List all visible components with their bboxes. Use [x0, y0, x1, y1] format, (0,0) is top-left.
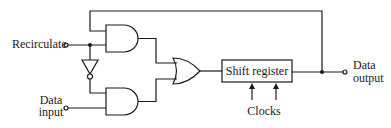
data-output-terminal: [343, 70, 347, 74]
and-upper-to-or-wire: [138, 39, 177, 64]
shift-register-label: Shift register: [222, 65, 292, 78]
recirculate-label: Recirculate: [12, 38, 67, 51]
junction-dot-output: [320, 70, 324, 74]
clock-arrowhead-1: [249, 83, 255, 89]
inverter-output-wire: [90, 79, 106, 93]
clock-arrowhead-2: [273, 83, 279, 89]
junction-dot-recirculate: [88, 43, 92, 47]
and-lower-to-or-wire: [138, 79, 177, 102]
and-gate-lower: [106, 88, 138, 115]
or-gate: [173, 58, 200, 84]
data-input-label-line2: input: [36, 106, 66, 119]
clocks-label: Clocks: [238, 105, 290, 118]
feedback-wire: [90, 11, 322, 72]
inverter-triangle: [82, 60, 98, 74]
data-output-label-line2: output: [353, 72, 384, 85]
inverter-bubble: [88, 74, 93, 79]
and-gate-upper: [106, 25, 138, 52]
